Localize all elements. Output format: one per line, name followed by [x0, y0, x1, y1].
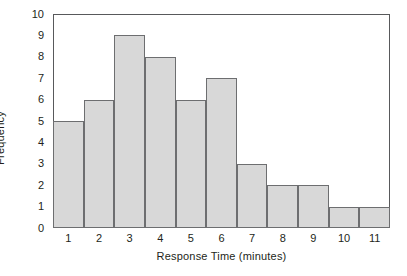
x-tick-label: 3: [114, 232, 145, 244]
y-axis-tick-labels: 109876543210: [0, 0, 49, 276]
y-tick-label: 6: [0, 94, 49, 105]
x-tick-label: 7: [237, 232, 268, 244]
bar: [329, 207, 360, 228]
x-tick-label: 6: [206, 232, 237, 244]
bar: [53, 121, 84, 228]
x-axis-tick-labels: 1234567891011: [53, 232, 390, 248]
y-tick-label: 3: [0, 158, 49, 169]
y-tick-label: 4: [0, 137, 49, 148]
bar: [298, 185, 329, 228]
y-tick-label: 5: [0, 116, 49, 127]
histogram-chart: Frequency 109876543210 1234567891011 Res…: [0, 0, 407, 276]
x-tick-label: 2: [84, 232, 115, 244]
y-tick-label: 8: [0, 51, 49, 62]
x-tick-label: 10: [329, 232, 360, 244]
y-tick-label: 10: [0, 9, 49, 20]
x-axis-title: Response Time (minutes): [53, 250, 390, 262]
bars-layer: [53, 14, 390, 228]
x-tick-label: 1: [53, 232, 84, 244]
bar: [267, 185, 298, 228]
x-tick-label: 4: [145, 232, 176, 244]
bar: [359, 207, 390, 228]
y-tick-label: 2: [0, 180, 49, 191]
bar: [237, 164, 268, 228]
bar: [145, 57, 176, 228]
x-tick-label: 9: [298, 232, 329, 244]
y-tick-label: 0: [0, 223, 49, 234]
x-tick-label: 8: [267, 232, 298, 244]
bar: [206, 78, 237, 228]
bar: [176, 100, 207, 228]
y-tick-label: 1: [0, 201, 49, 212]
bar: [84, 100, 115, 228]
x-tick-label: 11: [359, 232, 390, 244]
y-tick-label: 9: [0, 30, 49, 41]
y-tick-label: 7: [0, 73, 49, 84]
x-tick-label: 5: [176, 232, 207, 244]
bar: [114, 35, 145, 228]
